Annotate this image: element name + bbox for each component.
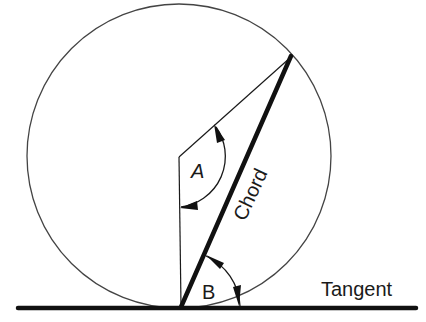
radius-to-chord-end [179, 57, 291, 157]
angle-b-label: B [202, 281, 215, 303]
angle-b-arrow-chord-icon [206, 255, 224, 269]
angle-a-arrow-bottom-icon [180, 201, 198, 210]
chord-label: Chord [229, 165, 272, 224]
tangent-label: Tangent [321, 278, 393, 300]
circle [27, 4, 331, 308]
angle-a-label: A [190, 160, 204, 182]
angle-a-arrow-top-icon [214, 124, 225, 143]
chord-tangent-diagram: A B Chord Tangent [0, 0, 426, 322]
radius-to-tangent-point [179, 157, 181, 306]
